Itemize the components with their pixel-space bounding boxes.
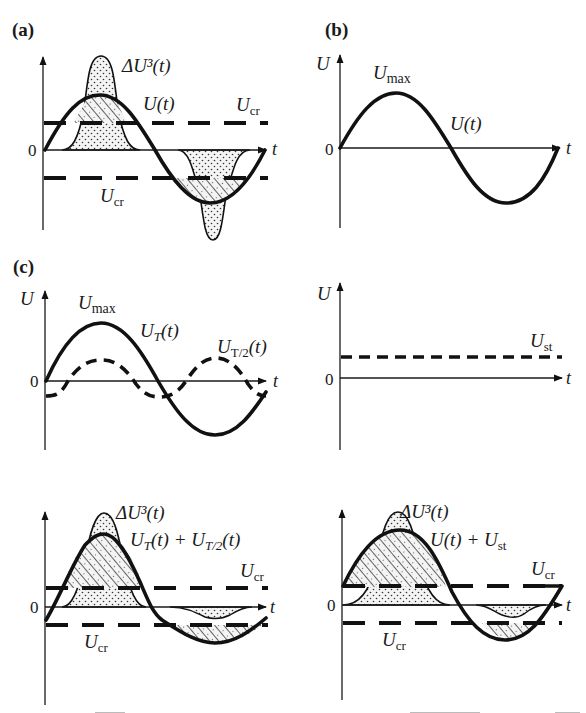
ucr-lower-label: Ucr	[84, 631, 109, 655]
t-axis-label: t	[566, 595, 572, 615]
panel-b: (b) U 0 t Umax U(t)	[316, 19, 572, 228]
y-axis-label: U	[317, 283, 332, 304]
t-axis-label: t	[566, 368, 572, 388]
origin-label: 0	[30, 372, 39, 391]
t-axis-label: t	[273, 371, 279, 391]
ut2-label: UT/2(t)	[217, 336, 267, 360]
origin-label: 0	[30, 598, 39, 617]
origin-label: 0	[28, 141, 37, 160]
ucr-upper-label: Ucr	[240, 560, 265, 584]
t-axis-label: t	[566, 138, 572, 158]
umax-label: Umax	[373, 62, 411, 86]
panel-label-b: (b)	[325, 19, 348, 41]
ucr-upper-label: Ucr	[236, 94, 261, 118]
delta-u3-label: ΔU³(t)	[399, 501, 449, 523]
panel-label-a: (a)	[12, 19, 34, 41]
ut-label: UT(t)	[140, 320, 179, 344]
panel-c-static: U 0 t Ust	[317, 283, 572, 450]
panel-sum-static: 0 t ΔU³(t) U(t) + Ust Ucr Ucr	[327, 501, 572, 700]
ucr-lower-label: Ucr	[100, 185, 125, 209]
ucr-lower-label: Ucr	[382, 629, 407, 653]
caption-fragment	[0, 707, 586, 713]
panel-c-harmonics: (c) U 0 t Umax UT(t) UT/2(t)	[13, 256, 279, 450]
panel-a: (a) 0 t ΔU³(t) U(t) Ucr Ucr	[12, 19, 278, 240]
t-axis-label: t	[270, 597, 276, 617]
umax-label: Umax	[78, 292, 116, 316]
signal-label: U(t)	[450, 113, 482, 135]
delta-u3-negative-lobe	[476, 605, 546, 617]
delta-u3-label: ΔU³(t)	[115, 502, 165, 524]
y-axis-label: U	[316, 53, 331, 74]
ucr-upper-label: Ucr	[531, 558, 556, 582]
ust-label: Ust	[530, 330, 553, 354]
delta-u3-negative-lobe	[170, 607, 252, 618]
t-axis-label: t	[272, 139, 278, 159]
origin-label: 0	[325, 140, 334, 159]
panel-sum-harmonic: 0 t ΔU³(t) UT(t) + UT/2(t) Ucr Ucr	[30, 502, 276, 705]
y-axis-label: U	[20, 288, 35, 309]
caption-cutoff-strip	[0, 703, 586, 713]
origin-label: 0	[325, 370, 334, 389]
signal-label: U(t)	[143, 93, 175, 115]
origin-label: 0	[327, 596, 336, 615]
delta-u3-label: ΔU³(t)	[121, 55, 171, 77]
sum-label: UT(t) + UT/2(t)	[130, 529, 240, 553]
sum-label: U(t) + Ust	[430, 529, 507, 553]
panel-label-c: (c)	[13, 256, 34, 278]
